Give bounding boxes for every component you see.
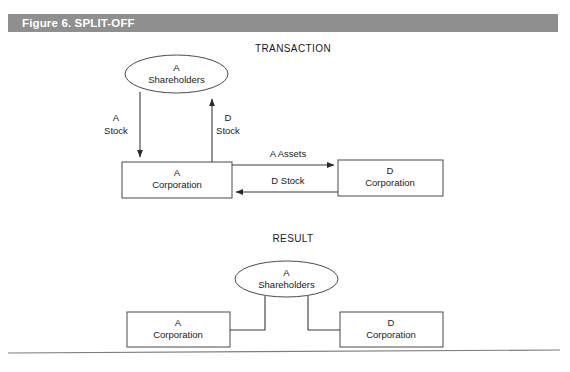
result-shareholders-label-line2: Shareholders	[258, 279, 315, 290]
result-shareholders-label-line1: A	[283, 267, 290, 278]
edge-d-stock-up-label-line1: D	[225, 112, 232, 123]
bottom-divider	[8, 350, 560, 353]
transaction-d-corporation-label-line2: Corporation	[365, 177, 415, 188]
result-a-corporation-label-line1: A	[175, 317, 182, 328]
transaction-a-corporation-label-line2: Corporation	[152, 179, 202, 190]
edge-d-stock-up-label-line2: Stock	[216, 125, 240, 136]
edge-a-stock-label-line2: Stock	[104, 125, 128, 136]
transaction-section-title: TRANSACTION	[255, 43, 331, 54]
figure-split-off: Figure 6. SPLIT-OFF TRANSACTION A Shareh…	[0, 0, 570, 372]
transaction-shareholders-label-line1: A	[173, 62, 180, 73]
result-connector-left	[230, 296, 265, 330]
result-d-corporation-label-line1: D	[388, 317, 395, 328]
transaction-a-corporation-label-line1: A	[174, 167, 181, 178]
edge-d-stock-left-label: D Stock	[271, 175, 305, 186]
edge-a-assets-label: A Assets	[270, 148, 307, 159]
split-off-diagram: TRANSACTION A Shareholders A Stock D Sto…	[0, 0, 570, 372]
edge-a-stock-label-line1: A	[113, 112, 120, 123]
result-connector-right	[308, 296, 340, 330]
transaction-shareholders-label-line2: Shareholders	[148, 74, 205, 85]
result-section-title: RESULT	[272, 233, 313, 244]
result-d-corporation-label-line2: Corporation	[366, 329, 416, 340]
transaction-d-corporation-label-line1: D	[387, 165, 394, 176]
result-a-corporation-label-line2: Corporation	[153, 329, 203, 340]
